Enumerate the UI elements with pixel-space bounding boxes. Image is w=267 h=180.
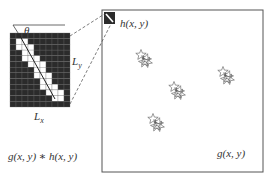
kernel-cell bbox=[16, 79, 22, 85]
kernel-cell bbox=[52, 67, 58, 73]
kernel-cell bbox=[22, 50, 28, 56]
kernel-cell bbox=[16, 73, 22, 79]
kernel-cell bbox=[28, 39, 34, 45]
blurred-image-label: g(x, y) bbox=[217, 147, 245, 159]
kernel-cell bbox=[34, 90, 40, 96]
kernel-cell bbox=[40, 90, 46, 96]
kernel-cell bbox=[46, 33, 52, 39]
blurred-star bbox=[218, 67, 235, 85]
kernel-width-label-sub: x bbox=[40, 116, 44, 125]
kernel-cell bbox=[64, 79, 70, 85]
kernel-cell bbox=[34, 33, 40, 39]
kernel-cell bbox=[16, 96, 22, 102]
kernel-thumbnail-label: h(x, y) bbox=[120, 17, 148, 29]
kernel-cell bbox=[10, 101, 16, 107]
kernel-cell bbox=[52, 44, 58, 50]
kernel-cell bbox=[46, 50, 52, 56]
kernel-cell bbox=[10, 67, 16, 73]
kernel-cell bbox=[22, 96, 28, 102]
kernel-cell bbox=[64, 39, 70, 45]
kernel-cell bbox=[10, 61, 16, 67]
kernel-width-label: Lx bbox=[34, 110, 44, 125]
kernel-cell bbox=[58, 101, 64, 107]
kernel-cell bbox=[28, 96, 34, 102]
kernel-cell bbox=[64, 90, 70, 96]
kernel-cell bbox=[46, 56, 52, 62]
convolution-formula: g(x, y) ∗ h(x, y) bbox=[8, 150, 77, 163]
kernel-cell bbox=[52, 56, 58, 62]
kernel-cell bbox=[28, 84, 34, 90]
kernel-cell bbox=[40, 96, 46, 102]
blurred-star bbox=[148, 114, 165, 132]
kernel-cell bbox=[40, 101, 46, 107]
kernel-cell bbox=[58, 50, 64, 56]
kernel-cell bbox=[40, 67, 46, 73]
kernel-cell bbox=[10, 56, 16, 62]
kernel-cell bbox=[34, 79, 40, 85]
angle-theta-label: θ bbox=[24, 24, 29, 36]
kernel-cell bbox=[22, 90, 28, 96]
kernel-cell bbox=[22, 84, 28, 90]
blur-kernel-grid bbox=[10, 33, 70, 107]
kernel-cell bbox=[40, 56, 46, 62]
kernel-height-label: Ly bbox=[72, 55, 82, 70]
kernel-cell bbox=[10, 50, 16, 56]
kernel-cell bbox=[16, 84, 22, 90]
kernel-cell bbox=[34, 44, 40, 50]
kernel-cell bbox=[34, 101, 40, 107]
kernel-cell bbox=[64, 96, 70, 102]
kernel-cell bbox=[34, 50, 40, 56]
kernel-cell bbox=[58, 33, 64, 39]
kernel-cell bbox=[16, 67, 22, 73]
kernel-cell bbox=[40, 33, 46, 39]
kernel-cell bbox=[28, 101, 34, 107]
kernel-cell bbox=[58, 39, 64, 45]
blurred-stars bbox=[136, 50, 235, 132]
kernel-cell bbox=[22, 73, 28, 79]
kernel-cell bbox=[34, 56, 40, 62]
kernel-cell bbox=[58, 73, 64, 79]
kernel-cell bbox=[16, 44, 22, 50]
kernel-cell bbox=[58, 79, 64, 85]
kernel-cell bbox=[58, 67, 64, 73]
kernel-cell bbox=[58, 56, 64, 62]
kernel-thumbnail bbox=[104, 12, 115, 24]
kernel-cell bbox=[64, 101, 70, 107]
kernel-cell bbox=[64, 56, 70, 62]
kernel-cell bbox=[10, 33, 16, 39]
kernel-cell bbox=[58, 61, 64, 67]
kernel-cell bbox=[46, 96, 52, 102]
kernel-cell bbox=[64, 67, 70, 73]
kernel-cell bbox=[46, 67, 52, 73]
kernel-cell bbox=[28, 67, 34, 73]
blurred-star bbox=[136, 50, 153, 68]
kernel-cell bbox=[40, 50, 46, 56]
kernel-cell bbox=[28, 61, 34, 67]
kernel-cell bbox=[34, 39, 40, 45]
kernel-cell bbox=[40, 84, 46, 90]
kernel-cell bbox=[52, 33, 58, 39]
kernel-cell bbox=[28, 79, 34, 85]
kernel-cell bbox=[52, 101, 58, 107]
kernel-cell bbox=[52, 84, 58, 90]
kernel-cell bbox=[64, 73, 70, 79]
kernel-cell bbox=[64, 33, 70, 39]
kernel-cell bbox=[10, 84, 16, 90]
kernel-cell bbox=[64, 61, 70, 67]
blurred-star bbox=[169, 82, 186, 100]
kernel-cell bbox=[34, 73, 40, 79]
kernel-cell bbox=[58, 96, 64, 102]
kernel-cell bbox=[16, 61, 22, 67]
kernel-cell bbox=[22, 101, 28, 107]
kernel-cell bbox=[52, 73, 58, 79]
kernel-cell bbox=[34, 96, 40, 102]
kernel-cell bbox=[52, 39, 58, 45]
kernel-cell bbox=[58, 90, 64, 96]
kernel-cell bbox=[46, 79, 52, 85]
kernel-cell bbox=[28, 44, 34, 50]
kernel-cell bbox=[52, 50, 58, 56]
kernel-cell bbox=[16, 101, 22, 107]
kernel-cell bbox=[22, 61, 28, 67]
kernel-cell bbox=[46, 101, 52, 107]
kernel-cell bbox=[58, 84, 64, 90]
